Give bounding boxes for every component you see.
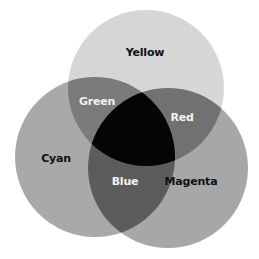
label-cyan: Cyan (41, 152, 71, 165)
label-yellow: Yellow (126, 46, 164, 59)
label-blue: Blue (112, 175, 139, 188)
label-green: Green (79, 95, 115, 108)
label-magenta: Magenta (165, 175, 218, 188)
label-red: Red (170, 111, 193, 124)
venn-diagram (0, 0, 259, 259)
